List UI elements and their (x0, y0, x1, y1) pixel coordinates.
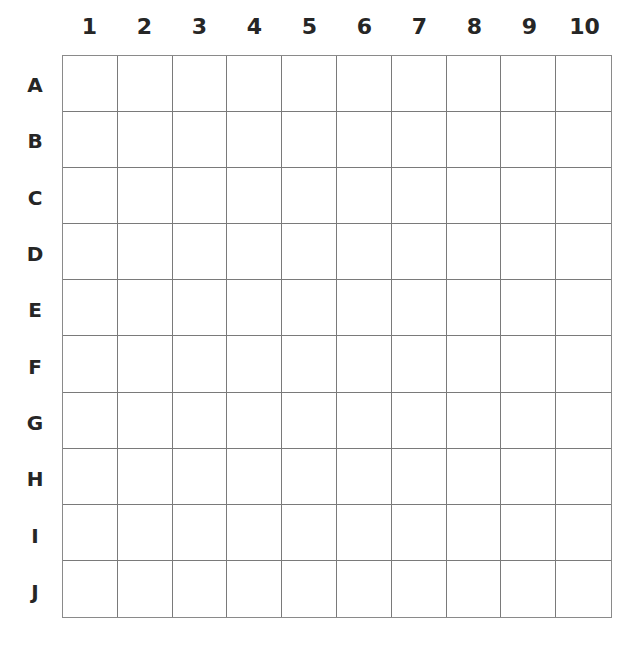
board-cell-G9[interactable] (501, 393, 556, 449)
board-cell-E5[interactable] (282, 280, 337, 336)
board-cell-J9[interactable] (501, 561, 556, 617)
board-cell-F8[interactable] (447, 336, 502, 392)
board-cell-G5[interactable] (282, 393, 337, 449)
board-cell-B5[interactable] (282, 112, 337, 168)
board-cell-J6[interactable] (337, 561, 392, 617)
board-cell-E8[interactable] (447, 280, 502, 336)
board-cell-I4[interactable] (227, 505, 282, 561)
board-cell-C9[interactable] (501, 168, 556, 224)
board-cell-J2[interactable] (118, 561, 173, 617)
board-cell-A2[interactable] (118, 56, 173, 112)
board-cell-F2[interactable] (118, 336, 173, 392)
board-cell-A5[interactable] (282, 56, 337, 112)
board-cell-E6[interactable] (337, 280, 392, 336)
board-cell-B1[interactable] (63, 112, 118, 168)
board-cell-F10[interactable] (556, 336, 611, 392)
board-cell-C4[interactable] (227, 168, 282, 224)
board-cell-E4[interactable] (227, 280, 282, 336)
board-cell-I10[interactable] (556, 505, 611, 561)
board-cell-B7[interactable] (392, 112, 447, 168)
board-cell-E7[interactable] (392, 280, 447, 336)
board-cell-D2[interactable] (118, 224, 173, 280)
board-cell-H2[interactable] (118, 449, 173, 505)
board-cell-H3[interactable] (173, 449, 228, 505)
board-cell-A3[interactable] (173, 56, 228, 112)
board-cell-D4[interactable] (227, 224, 282, 280)
board-cell-C10[interactable] (556, 168, 611, 224)
board-cell-D7[interactable] (392, 224, 447, 280)
board-cell-G7[interactable] (392, 393, 447, 449)
board-cell-I5[interactable] (282, 505, 337, 561)
board-cell-I1[interactable] (63, 505, 118, 561)
board-cell-G8[interactable] (447, 393, 502, 449)
board-cell-H5[interactable] (282, 449, 337, 505)
board-cell-A4[interactable] (227, 56, 282, 112)
board-cell-I6[interactable] (337, 505, 392, 561)
board-cell-A9[interactable] (501, 56, 556, 112)
board-cell-E3[interactable] (173, 280, 228, 336)
board-cell-B9[interactable] (501, 112, 556, 168)
board-cell-B2[interactable] (118, 112, 173, 168)
board-cell-C1[interactable] (63, 168, 118, 224)
board-cell-G2[interactable] (118, 393, 173, 449)
board-cell-J5[interactable] (282, 561, 337, 617)
board-cell-A1[interactable] (63, 56, 118, 112)
board-cell-B3[interactable] (173, 112, 228, 168)
board-cell-I9[interactable] (501, 505, 556, 561)
board-cell-B10[interactable] (556, 112, 611, 168)
board-cell-I3[interactable] (173, 505, 228, 561)
board-cell-I7[interactable] (392, 505, 447, 561)
board-cell-H1[interactable] (63, 449, 118, 505)
board-cell-C2[interactable] (118, 168, 173, 224)
board-cell-H4[interactable] (227, 449, 282, 505)
board-cell-J1[interactable] (63, 561, 118, 617)
board-cell-H10[interactable] (556, 449, 611, 505)
board-cell-C7[interactable] (392, 168, 447, 224)
board-cell-J4[interactable] (227, 561, 282, 617)
board-cell-J8[interactable] (447, 561, 502, 617)
board-cell-G4[interactable] (227, 393, 282, 449)
board-cell-D10[interactable] (556, 224, 611, 280)
board-cell-G1[interactable] (63, 393, 118, 449)
board-cell-D5[interactable] (282, 224, 337, 280)
board-cell-H6[interactable] (337, 449, 392, 505)
board-cell-G3[interactable] (173, 393, 228, 449)
board-cell-A7[interactable] (392, 56, 447, 112)
board-cell-F5[interactable] (282, 336, 337, 392)
board-cell-A8[interactable] (447, 56, 502, 112)
board-cell-I8[interactable] (447, 505, 502, 561)
board-cell-D3[interactable] (173, 224, 228, 280)
board-cell-J7[interactable] (392, 561, 447, 617)
board-cell-G10[interactable] (556, 393, 611, 449)
board-cell-C8[interactable] (447, 168, 502, 224)
board-cell-D1[interactable] (63, 224, 118, 280)
board-cell-F1[interactable] (63, 336, 118, 392)
board-cell-I2[interactable] (118, 505, 173, 561)
board-cell-J10[interactable] (556, 561, 611, 617)
board-cell-A6[interactable] (337, 56, 392, 112)
board-cell-C6[interactable] (337, 168, 392, 224)
board-cell-J3[interactable] (173, 561, 228, 617)
board-cell-A10[interactable] (556, 56, 611, 112)
board-cell-H7[interactable] (392, 449, 447, 505)
board-cell-D6[interactable] (337, 224, 392, 280)
board-cell-E2[interactable] (118, 280, 173, 336)
board-cell-F7[interactable] (392, 336, 447, 392)
board-cell-F4[interactable] (227, 336, 282, 392)
board-cell-E9[interactable] (501, 280, 556, 336)
board-cell-D8[interactable] (447, 224, 502, 280)
board-cell-B8[interactable] (447, 112, 502, 168)
board-cell-E1[interactable] (63, 280, 118, 336)
board-cell-H9[interactable] (501, 449, 556, 505)
board-cell-C3[interactable] (173, 168, 228, 224)
board-cell-H8[interactable] (447, 449, 502, 505)
board-cell-C5[interactable] (282, 168, 337, 224)
board-cell-F6[interactable] (337, 336, 392, 392)
board-cell-B6[interactable] (337, 112, 392, 168)
board-cell-B4[interactable] (227, 112, 282, 168)
board-cell-F3[interactable] (173, 336, 228, 392)
board-cell-D9[interactable] (501, 224, 556, 280)
board-cell-F9[interactable] (501, 336, 556, 392)
board-cell-E10[interactable] (556, 280, 611, 336)
board-cell-G6[interactable] (337, 393, 392, 449)
